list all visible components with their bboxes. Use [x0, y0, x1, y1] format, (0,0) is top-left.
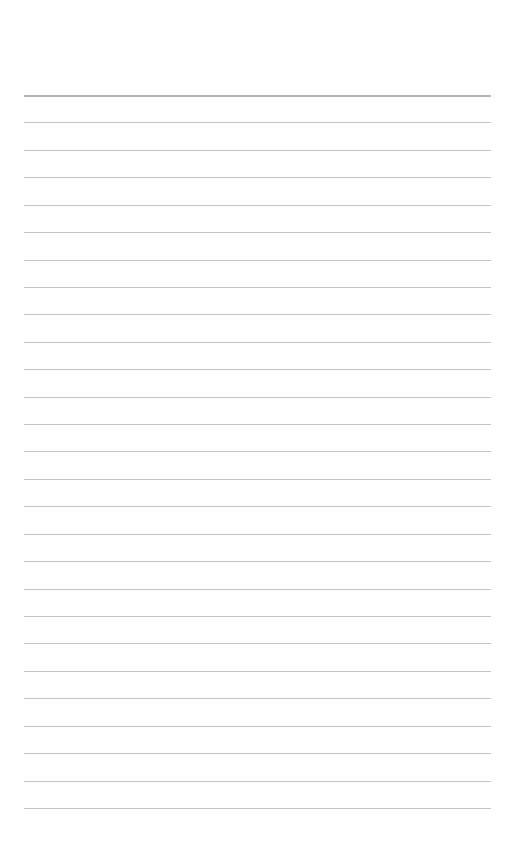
ruled-line [24, 342, 491, 343]
ruled-line [24, 506, 491, 507]
ruled-line [24, 479, 491, 480]
ruled-line [24, 424, 491, 425]
ruled-line [24, 698, 491, 699]
ruled-line [24, 616, 491, 617]
ruled-line [24, 534, 491, 535]
ruled-line [24, 753, 491, 754]
ruled-line [24, 205, 491, 206]
ruled-line [24, 451, 491, 452]
ruled-line [24, 671, 491, 672]
ruled-line [24, 781, 491, 782]
ruled-line [24, 561, 491, 562]
lined-paper [0, 0, 531, 862]
ruled-line [24, 369, 491, 370]
ruled-line [24, 177, 491, 178]
ruled-line [24, 122, 491, 123]
ruled-line [24, 314, 491, 315]
ruled-line [24, 232, 491, 233]
ruled-line [24, 589, 491, 590]
ruled-line [24, 260, 491, 261]
ruled-line [24, 287, 491, 288]
ruled-line [24, 150, 491, 151]
ruled-line [24, 808, 491, 809]
ruled-line [24, 726, 491, 727]
ruled-line [24, 397, 491, 398]
ruled-line [24, 95, 491, 97]
ruled-line [24, 643, 491, 644]
